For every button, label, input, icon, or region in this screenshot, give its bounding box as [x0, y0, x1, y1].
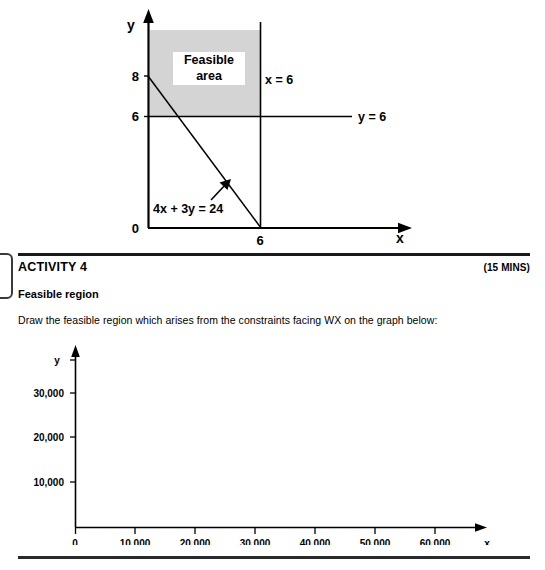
document-page: y x 8 6 0 6 Feasible area x = 6 y = 6 4x…: [0, 0, 545, 570]
origin-label: 0: [132, 221, 139, 236]
y-axis-label-2: y: [54, 355, 60, 366]
constraint-label-diagonal: 4x + 3y = 24: [153, 202, 223, 216]
feasible-area-label-line1: Feasible: [184, 53, 234, 67]
x-axis-arrowhead-2: [475, 523, 487, 532]
y-axis-arrowhead-2: [71, 345, 80, 357]
x-tick-label-6: 6: [256, 233, 263, 248]
blank-answer-figure: y x 30,000 20,000 10,000 0 10,000 20,000…: [0, 340, 545, 545]
feasible-area-label-line2: area: [196, 69, 223, 83]
x-tick-label-20000: 20,000: [180, 538, 211, 545]
activity-duration-badge: (15 MINS): [484, 262, 530, 273]
section-divider-top: [18, 253, 530, 256]
blank-answer-chart: y x 30,000 20,000 10,000 0 10,000 20,000…: [0, 340, 545, 545]
x-tick-label-0: 0: [72, 538, 78, 545]
x-tick-label-10000: 10,000: [120, 538, 151, 545]
y-axis-label: y: [127, 17, 135, 33]
x-tick-label-60000: 60,000: [420, 538, 451, 545]
constraint-label-x6: x = 6: [265, 73, 293, 87]
activity-subtitle: Feasible region: [18, 288, 99, 300]
x-tick-label-50000: 50,000: [360, 538, 391, 545]
y-tick-label-20000: 20,000: [33, 432, 64, 443]
y-tick-label-6: 6: [132, 109, 139, 124]
y-axis-arrowhead: [143, 9, 154, 23]
x-tick-label-30000: 30,000: [240, 538, 271, 545]
constraint-label-y6: y = 6: [358, 110, 386, 124]
activity-title: ACTIVITY 4: [18, 260, 87, 274]
y-tick-label-8: 8: [132, 69, 139, 84]
margin-tab-marker: [0, 253, 13, 299]
feasible-region-chart: y x 8 6 0 6 Feasible area x = 6 y = 6 4x…: [0, 0, 545, 248]
feasible-region-figure: y x 8 6 0 6 Feasible area x = 6 y = 6 4x…: [0, 0, 545, 248]
activity-instruction: Draw the feasible region which arises fr…: [18, 314, 437, 326]
y-tick-label-10000: 10,000: [33, 477, 64, 488]
x-tick-label-40000: 40,000: [300, 538, 331, 545]
section-divider-bottom: [18, 556, 530, 559]
y-tick-label-30000: 30,000: [33, 388, 64, 399]
x-axis-label-2: x: [484, 538, 490, 545]
x-axis-label: x: [396, 230, 404, 246]
